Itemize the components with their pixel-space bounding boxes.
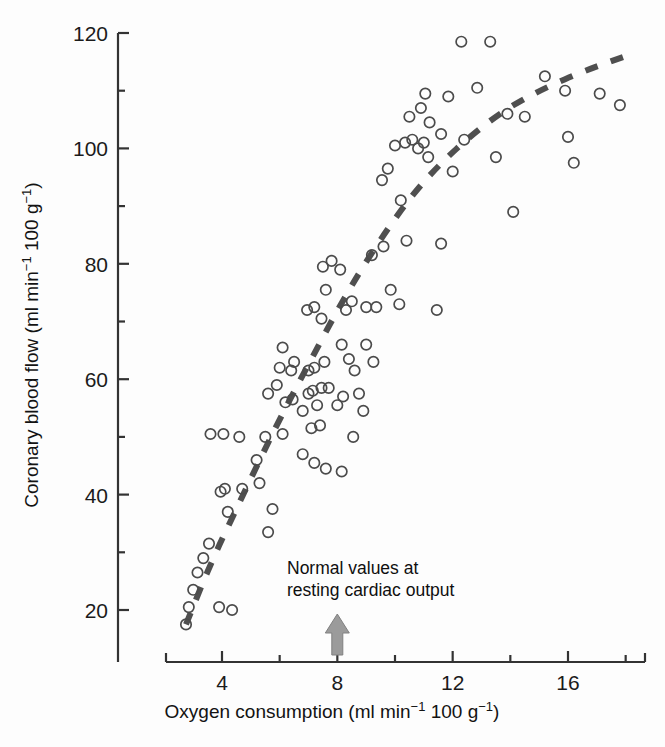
data-point bbox=[298, 406, 308, 416]
data-point bbox=[569, 158, 579, 168]
data-point bbox=[404, 112, 414, 122]
y-tick-label: 60 bbox=[85, 368, 108, 391]
data-point bbox=[263, 388, 273, 398]
data-point bbox=[254, 478, 264, 488]
data-point bbox=[321, 285, 331, 295]
data-point bbox=[234, 432, 244, 442]
data-point bbox=[423, 152, 433, 162]
data-point bbox=[401, 236, 411, 246]
data-point bbox=[416, 103, 426, 113]
data-point bbox=[361, 302, 371, 312]
data-point bbox=[394, 299, 404, 309]
data-point bbox=[205, 429, 215, 439]
annotation-line-1: Normal values at bbox=[287, 558, 418, 578]
trend-line-dashed bbox=[186, 56, 626, 624]
data-point bbox=[390, 140, 400, 150]
data-point bbox=[383, 163, 393, 173]
data-point bbox=[378, 241, 388, 251]
data-point bbox=[459, 135, 469, 145]
data-point bbox=[184, 602, 194, 612]
data-point bbox=[448, 166, 458, 176]
y-tick-label: 20 bbox=[85, 599, 108, 622]
data-point bbox=[371, 302, 381, 312]
data-point bbox=[386, 285, 396, 295]
data-point bbox=[227, 605, 237, 615]
x-axis-ticks bbox=[166, 651, 645, 662]
data-point bbox=[218, 429, 228, 439]
data-point bbox=[349, 365, 359, 375]
x-axis-title: Oxygen consumption (ml min−1 100 g−1) bbox=[165, 699, 500, 722]
data-point bbox=[420, 88, 430, 98]
data-point bbox=[472, 83, 482, 93]
data-point bbox=[368, 357, 378, 367]
data-point bbox=[491, 152, 501, 162]
data-point bbox=[260, 432, 270, 442]
data-point bbox=[563, 132, 573, 142]
data-point bbox=[198, 553, 208, 563]
y-tick-label: 40 bbox=[85, 484, 108, 507]
scatter-data-points bbox=[181, 37, 625, 630]
y-tick-label: 120 bbox=[73, 22, 108, 45]
x-tick-label: 16 bbox=[556, 671, 579, 694]
y-tick-label: 80 bbox=[85, 253, 108, 276]
up-arrow-marker bbox=[325, 614, 349, 655]
data-point bbox=[615, 100, 625, 110]
annotation-line-2: resting cardiac output bbox=[287, 580, 454, 600]
x-axis-tick-labels: 481216 bbox=[216, 671, 580, 694]
regression-dashed-curve bbox=[186, 56, 626, 624]
data-point bbox=[332, 400, 342, 410]
data-point bbox=[275, 363, 285, 373]
data-point bbox=[443, 91, 453, 101]
data-point bbox=[347, 296, 357, 306]
data-point bbox=[192, 567, 202, 577]
data-point bbox=[560, 86, 570, 96]
data-point bbox=[337, 466, 347, 476]
y-axis-ticks bbox=[118, 33, 129, 610]
data-point bbox=[436, 238, 446, 248]
data-point bbox=[335, 264, 345, 274]
data-point bbox=[321, 463, 331, 473]
data-point bbox=[204, 538, 214, 548]
data-point bbox=[432, 305, 442, 315]
data-point bbox=[277, 342, 287, 352]
data-point bbox=[324, 383, 334, 393]
x-tick-label: 4 bbox=[216, 671, 228, 694]
y-axis-tick-labels: 20406080100120 bbox=[73, 22, 108, 622]
data-point bbox=[502, 109, 512, 119]
data-point bbox=[326, 256, 336, 266]
data-point bbox=[267, 504, 277, 514]
data-point bbox=[436, 129, 446, 139]
data-point bbox=[358, 406, 368, 416]
data-point bbox=[377, 175, 387, 185]
data-point bbox=[344, 354, 354, 364]
data-point bbox=[337, 339, 347, 349]
data-point bbox=[309, 458, 319, 468]
x-tick-label: 12 bbox=[441, 671, 464, 694]
data-point bbox=[312, 400, 322, 410]
data-point bbox=[223, 507, 233, 517]
data-point bbox=[319, 357, 329, 367]
data-point bbox=[595, 88, 605, 98]
data-point bbox=[251, 455, 261, 465]
data-point bbox=[413, 143, 423, 153]
data-point bbox=[263, 527, 273, 537]
data-point bbox=[419, 137, 429, 147]
up-arrow-shape bbox=[325, 614, 349, 655]
y-axis-title: Coronary blood flow (ml min−1 100 g−1) bbox=[19, 182, 42, 507]
x-tick-label: 8 bbox=[331, 671, 343, 694]
chart-figure: 20406080100120 481216 Normal values at r… bbox=[0, 0, 665, 747]
data-point bbox=[485, 37, 495, 47]
data-point bbox=[540, 71, 550, 81]
data-point bbox=[316, 313, 326, 323]
scatter-plot-svg: 20406080100120 481216 Normal values at r… bbox=[0, 0, 665, 747]
y-tick-label: 100 bbox=[73, 137, 108, 160]
data-point bbox=[214, 602, 224, 612]
data-point bbox=[348, 432, 358, 442]
data-point bbox=[272, 380, 282, 390]
data-point bbox=[298, 449, 308, 459]
data-point bbox=[396, 195, 406, 205]
data-point bbox=[520, 112, 530, 122]
data-point bbox=[456, 37, 466, 47]
data-point bbox=[277, 429, 287, 439]
data-point bbox=[361, 339, 371, 349]
